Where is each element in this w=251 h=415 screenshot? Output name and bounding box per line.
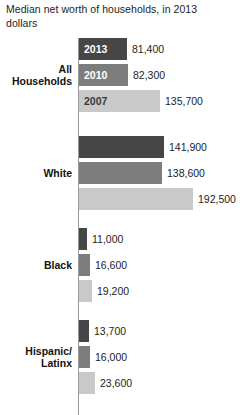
bar-2007[interactable] xyxy=(79,188,193,210)
bar-value-label: 16,000 xyxy=(95,346,127,368)
bar-2007[interactable] xyxy=(79,90,160,112)
group-label: Black xyxy=(0,259,72,272)
bar-value-label: 11,000 xyxy=(92,228,123,250)
bar-value-label: 81,400 xyxy=(132,38,164,60)
group-label: AllHouseholds xyxy=(0,63,72,88)
group-label-line-1: Hispanic/ xyxy=(25,345,72,357)
chart-title: Median net worth of households, in 2013 … xyxy=(6,3,236,30)
bar-value-label: 138,600 xyxy=(167,162,205,184)
bar-value-label: 141,900 xyxy=(169,136,207,158)
bar-value-label: 13,700 xyxy=(94,320,126,342)
bar-group: Black11,00016,60019,200 xyxy=(0,228,251,302)
bar-group: White141,900138,600192,500 xyxy=(0,136,251,210)
bar-value-label: 23,600 xyxy=(100,372,132,394)
bar-2013[interactable] xyxy=(79,320,89,342)
bar-value-label: 16,600 xyxy=(95,254,127,276)
bar-2010[interactable] xyxy=(79,346,90,368)
group-label-line-2: Latinx xyxy=(41,357,72,369)
bar-group: AllHouseholds201381,400201082,3002007135… xyxy=(0,38,251,112)
group-label-line-1: All xyxy=(59,63,72,75)
bar-2013[interactable] xyxy=(79,136,164,158)
bar-value-label: 135,700 xyxy=(165,90,203,112)
group-label-line-1: Black xyxy=(44,259,72,271)
chart-root: Median net worth of households, in 2013 … xyxy=(0,0,251,415)
bar-value-label: 19,200 xyxy=(97,280,129,302)
group-label-line-2: Households xyxy=(12,75,72,87)
group-label-line-1: White xyxy=(43,167,72,179)
bar-2007[interactable] xyxy=(79,372,95,394)
plot-area: AllHouseholds201381,400201082,3002007135… xyxy=(0,32,251,415)
bar-2013[interactable] xyxy=(79,38,127,60)
group-label: White xyxy=(0,167,72,180)
bar-value-label: 82,300 xyxy=(133,64,165,86)
bar-group: Hispanic/Latinx13,70016,00023,600 xyxy=(0,320,251,394)
bar-2010[interactable] xyxy=(79,162,162,184)
chart-title-line-1: Median net worth of households, in 2013 xyxy=(6,3,197,15)
group-label: Hispanic/Latinx xyxy=(0,345,72,370)
bar-2007[interactable] xyxy=(79,280,92,302)
bar-2010[interactable] xyxy=(79,64,128,86)
bar-value-label: 192,500 xyxy=(198,188,236,210)
bar-2010[interactable] xyxy=(79,254,90,276)
bar-2013[interactable] xyxy=(79,228,87,250)
chart-title-line-2: dollars xyxy=(6,17,37,29)
